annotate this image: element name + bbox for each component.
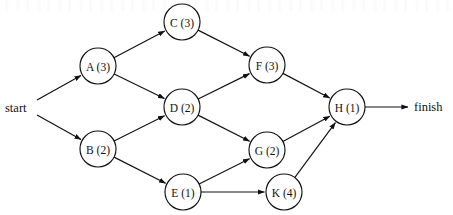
edge-start-to-b (37, 115, 81, 140)
edge-c-to-f (198, 30, 250, 56)
nodes-layer: A (3)B (2)C (3)D (2)E (1)F (3)G (2)H (1)… (80, 4, 365, 210)
node-label-g: G (2) (255, 145, 280, 158)
edge-a-to-c (114, 31, 165, 58)
edge-g-to-h (283, 116, 330, 141)
edge-k-to-h (295, 123, 336, 178)
edge-d-to-f (198, 74, 249, 99)
node-f[interactable]: F (3) (249, 47, 285, 83)
node-k[interactable]: K (4) (266, 174, 302, 210)
finish-label: finish (414, 100, 443, 114)
graph-svg: A (3)B (2)C (3)D (2)E (1)F (3)G (2)H (1)… (0, 0, 453, 215)
edge-d-to-g (198, 115, 250, 141)
node-label-a: A (3) (86, 61, 110, 74)
node-label-b: B (2) (86, 144, 110, 157)
node-b[interactable]: B (2) (80, 131, 116, 167)
node-label-f: F (3) (256, 60, 279, 73)
node-g[interactable]: G (2) (249, 132, 285, 168)
edge-f-to-h (283, 73, 330, 98)
node-label-e: E (1) (171, 187, 194, 200)
node-d[interactable]: D (2) (164, 89, 200, 125)
node-label-c: C (3) (170, 17, 194, 30)
edge-b-to-d (114, 116, 164, 141)
node-label-k: K (4) (272, 187, 297, 200)
diagram-canvas: A (3)B (2)C (3)D (2)E (1)F (3)G (2)H (1)… (0, 0, 453, 215)
start-label: start (5, 101, 27, 115)
edge-b-to-e (114, 157, 166, 183)
node-e[interactable]: E (1) (165, 174, 201, 210)
edge-start-to-a (37, 75, 81, 100)
edge-e-to-g (199, 159, 249, 184)
node-h[interactable]: H (1) (329, 89, 365, 125)
edge-a-to-d (114, 74, 164, 99)
node-label-h: H (1) (335, 102, 360, 115)
node-a[interactable]: A (3) (80, 48, 116, 84)
node-label-d: D (2) (170, 102, 195, 115)
node-c[interactable]: C (3) (164, 4, 200, 40)
